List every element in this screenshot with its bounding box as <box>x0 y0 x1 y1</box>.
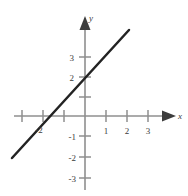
linear-graph-figure: -2 1 2 3 3 2 -1 -2 -3 x y <box>0 0 188 196</box>
y-tick-label-3: 3 <box>70 53 75 63</box>
y-tick-label-neg1: -1 <box>69 132 77 142</box>
y-axis-label: y <box>88 13 93 23</box>
y-tick-label-neg3: -3 <box>69 174 77 184</box>
x-tick-label-1: 1 <box>104 126 109 136</box>
y-tick-label-neg2: -2 <box>69 153 77 163</box>
x-axis-arrowhead <box>162 111 176 122</box>
y-tick-label-2: 2 <box>70 73 75 83</box>
coordinate-plane: -2 1 2 3 3 2 -1 -2 -3 x y <box>0 0 188 196</box>
x-axis-label: x <box>177 111 182 121</box>
x-tick-label-3: 3 <box>146 126 151 136</box>
x-tick-label-neg2: -2 <box>35 125 43 135</box>
x-tick-label-2: 2 <box>125 126 130 136</box>
